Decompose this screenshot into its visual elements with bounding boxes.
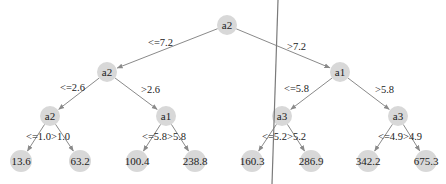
vertical-divider-line: [272, 0, 278, 184]
edge-condition-label: <=2.6: [60, 82, 85, 93]
node-label: a1: [335, 66, 345, 78]
edge-condition-label: >5.8: [167, 131, 186, 142]
edge-condition-label: <=4.9: [378, 131, 403, 142]
node-label: a2: [45, 110, 55, 122]
node-label: a1: [161, 110, 171, 122]
node-label: a3: [277, 110, 288, 122]
edge-condition-label: >1.0: [51, 131, 70, 142]
split-node: a3: [388, 106, 408, 126]
leaf-node: 342.2: [356, 150, 381, 172]
node-label: 675.3: [414, 155, 439, 167]
tree-edge: [236, 29, 330, 68]
node-label: 342.2: [356, 155, 381, 167]
node-label: 286.9: [299, 155, 324, 167]
leaf-node: 238.8: [183, 150, 208, 172]
edge-condition-label: >7.2: [287, 41, 306, 52]
node-label: 100.4: [125, 155, 150, 167]
leaf-node: 675.3: [414, 150, 439, 172]
leaf-node: 160.3: [240, 150, 265, 172]
node-label: 238.8: [183, 155, 208, 167]
edge-condition-label: >5.2: [287, 131, 306, 142]
edge-condition-label: <=5.8: [142, 131, 167, 142]
split-node: a1: [156, 106, 176, 126]
edge-condition-label: >2.6: [141, 84, 160, 95]
edge-condition-label: >5.8: [375, 84, 394, 95]
edge-condition-label: <=5.8: [284, 83, 309, 94]
edge-condition-label: <=1.0: [26, 131, 51, 142]
leaf-node: 100.4: [125, 150, 150, 172]
split-node: a2: [40, 106, 60, 126]
split-node: a1: [330, 62, 350, 82]
node-label: a2: [102, 66, 112, 78]
node-label: 160.3: [240, 155, 265, 167]
node-label: 13.6: [11, 155, 31, 167]
edge-condition-label: <=7.2: [148, 37, 173, 48]
node-label: a2: [222, 19, 232, 31]
leaf-node: 63.2: [69, 150, 91, 172]
edge-condition-label: <=5.2: [262, 131, 287, 142]
split-node: a2: [217, 15, 237, 35]
leaf-node: 286.9: [299, 150, 324, 172]
edges-layer: [28, 29, 420, 151]
decision-tree-diagram: <=7.2>7.2<=2.6>2.6<=5.8>5.8<=1.0>1.0<=5.…: [0, 0, 446, 184]
node-label: 63.2: [70, 155, 89, 167]
edge-condition-label: >4.9: [403, 131, 422, 142]
node-label: a3: [393, 110, 404, 122]
tree-edge: [117, 29, 217, 68]
tree-svg: <=7.2>7.2<=2.6>2.6<=5.8>5.8<=1.0>1.0<=5.…: [0, 0, 446, 184]
split-node: a2: [97, 62, 117, 82]
leaf-node: 13.6: [10, 150, 32, 172]
